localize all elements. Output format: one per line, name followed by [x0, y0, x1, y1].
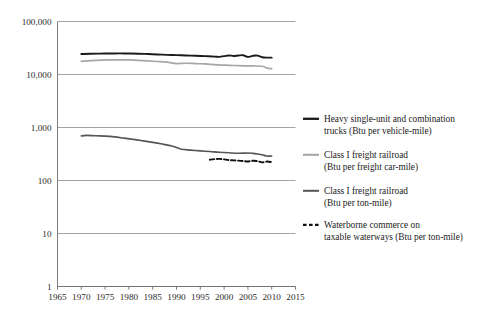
- legend-label-line2-1: (Btu per freight car-mile): [324, 162, 418, 173]
- x-tick-label: 1980: [120, 292, 139, 302]
- legend-label-line1-2: Class I freight railroad: [324, 186, 408, 196]
- legend-label-line2-2: (Btu per ton-mile): [324, 198, 392, 209]
- x-tick-label: 1985: [144, 292, 163, 302]
- chart-figure: 1101001,00010,000100,000 196519701975198…: [0, 0, 481, 325]
- legend-label-line2-0: trucks (Btu per vehicle-mile): [324, 126, 432, 137]
- x-tick-label: 2015: [286, 292, 305, 302]
- y-tick-label: 10,000: [26, 70, 52, 80]
- x-tick-label: 1975: [96, 292, 115, 302]
- y-tick-label: 100: [38, 176, 52, 186]
- x-tick-label: 2005: [239, 292, 258, 302]
- x-tick-label: 1970: [72, 292, 91, 302]
- legend-label-line1-3: Waterborne commerce on: [324, 220, 420, 230]
- log-line-chart: 1101001,00010,000100,000 196519701975198…: [0, 0, 481, 325]
- y-tick-label: 10: [42, 229, 52, 239]
- legend-label-line1-1: Class I freight railroad: [324, 150, 408, 160]
- x-tick-label: 2000: [215, 292, 234, 302]
- x-tick-label: 2010: [263, 292, 282, 302]
- y-tick-label: 1,000: [31, 123, 52, 133]
- x-tick-label: 1990: [167, 292, 186, 302]
- legend-label-line2-3: taxable waterways (Btu per ton-mile): [324, 232, 463, 243]
- y-tick-label: 1: [47, 282, 52, 292]
- x-tick-label: 1965: [48, 292, 67, 302]
- x-tick-label: 1995: [191, 292, 210, 302]
- x-axis-tick-labels: 1965197019751980198519901995200020052010…: [48, 292, 305, 302]
- legend-label-line1-0: Heavy single-unit and combination: [324, 114, 455, 124]
- y-tick-label: 100,000: [22, 17, 52, 27]
